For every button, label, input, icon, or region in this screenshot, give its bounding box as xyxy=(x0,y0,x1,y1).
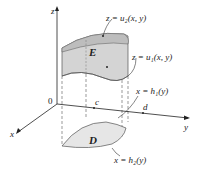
region-e-label: E xyxy=(88,46,96,58)
tick-d-label: d xyxy=(143,102,148,112)
region-d-label: D xyxy=(88,134,97,146)
z-axis-label: z xyxy=(50,6,55,16)
boundary-h1-label: x = h₁(y) xyxy=(135,86,168,96)
tick-c-label: c xyxy=(95,97,99,107)
z-arrow-icon xyxy=(55,6,59,11)
triple-integral-diagram: z x y 0 c d E D z = u₂(x, y) z = u₁(x, y… xyxy=(0,0,200,171)
top-surface-label: z = u₂(x, y) xyxy=(105,13,146,23)
x-axis-label: x xyxy=(9,129,14,139)
origin-label: 0 xyxy=(48,96,53,106)
bottom-surface-label: z = u₁(x, y) xyxy=(131,52,172,62)
y-arrow-icon xyxy=(184,116,190,121)
x-arrow-icon xyxy=(16,128,21,134)
y-axis-label: y xyxy=(183,122,188,132)
boundary-h2-label: x = h₂(y) xyxy=(113,155,146,165)
